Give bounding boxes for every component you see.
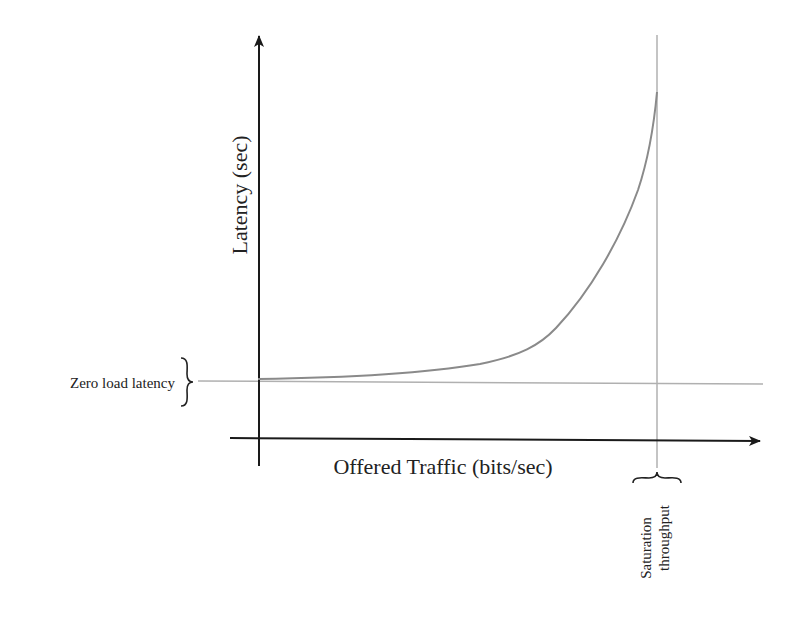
y-axis-label: Latency (sec): [227, 135, 252, 254]
x-axis: [230, 438, 760, 441]
latency-curve: [258, 92, 657, 379]
x-axis-label: Offered Traffic (bits/sec): [333, 454, 552, 479]
latency-throughput-diagram: Latency (sec) Offered Traffic (bits/sec)…: [0, 0, 789, 618]
saturation-label-line2: throughput: [656, 504, 672, 571]
zero-load-brace-icon: [181, 358, 193, 406]
zero-load-latency-line: [198, 381, 763, 384]
zero-load-latency-label: Zero load latency: [70, 375, 175, 391]
saturation-label-line1: Saturation: [638, 517, 654, 579]
saturation-brace-icon: [633, 472, 681, 483]
